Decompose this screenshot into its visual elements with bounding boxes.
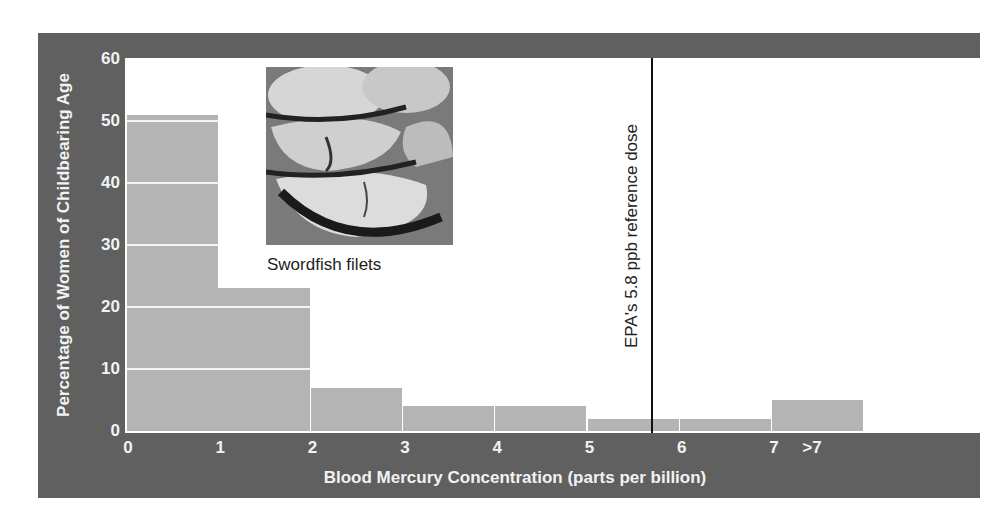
y-tick-label: 20	[80, 297, 120, 317]
y-axis-label: Percentage of Women of Childbearing Age	[54, 55, 74, 435]
grid-line	[218, 306, 309, 308]
y-tick-label: 30	[80, 235, 120, 255]
reference-dose-label: EPA's 5.8 ppb reference dose	[622, 86, 642, 386]
x-tick-label: 2	[308, 438, 317, 458]
grid-line	[127, 120, 218, 122]
swordfish-image-icon	[266, 67, 453, 245]
x-tick-label: >7	[802, 438, 821, 458]
bar-4-5	[495, 406, 586, 431]
bar-6-7	[680, 419, 771, 431]
swordfish-photo	[266, 67, 453, 245]
bar-5-6	[588, 419, 679, 431]
bar-3-4	[403, 406, 494, 431]
x-tick-label: 5	[585, 438, 594, 458]
y-tick-label: 50	[80, 111, 120, 131]
x-tick-label: 7	[769, 438, 778, 458]
grid-line	[127, 368, 218, 370]
x-tick-label: 0	[123, 438, 132, 458]
x-tick-label: 6	[677, 438, 686, 458]
bar->7	[772, 400, 863, 431]
bar-1-2	[218, 288, 309, 431]
y-tick-label: 40	[80, 173, 120, 193]
y-tick-label: 10	[80, 359, 120, 379]
grid-line	[127, 182, 218, 184]
x-tick-label: 3	[400, 438, 409, 458]
grid-line	[218, 368, 309, 370]
bar-2-3	[311, 388, 402, 431]
y-tick-label: 60	[80, 49, 120, 69]
x-tick-label: 4	[492, 438, 501, 458]
x-tick-label: 1	[216, 438, 225, 458]
grid-line	[127, 244, 218, 246]
x-axis-label: Blood Mercury Concentration (parts per b…	[125, 468, 905, 488]
y-tick-label: 0	[80, 421, 120, 441]
x-axis-baseline	[125, 431, 980, 433]
grid-line	[127, 306, 218, 308]
reference-dose-line	[651, 58, 653, 433]
photo-caption: Swordfish filets	[267, 255, 381, 275]
bar-0-1	[127, 115, 218, 431]
y-axis-ticks: 0102030405060	[78, 0, 120, 523]
